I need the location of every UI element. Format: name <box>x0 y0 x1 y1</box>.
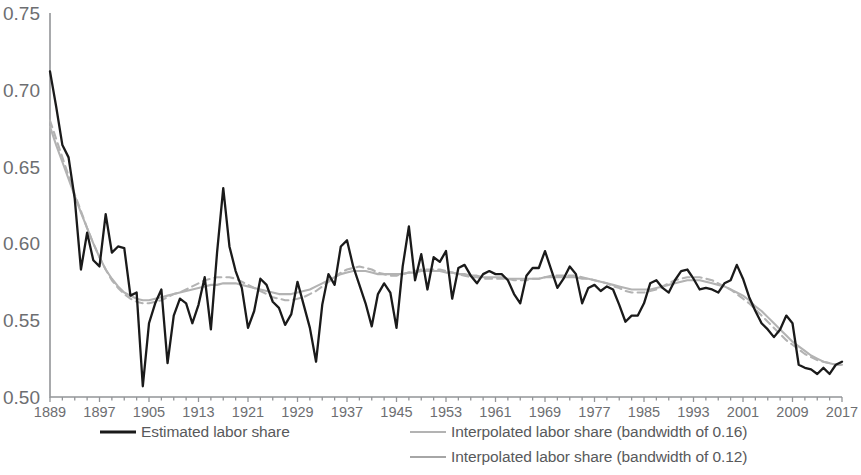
x-tick-label: 1889 <box>34 404 66 420</box>
y-tick-label: 0.65 <box>3 157 40 178</box>
x-tick-label: 1969 <box>529 404 561 420</box>
labor-share-chart: 0.750.700.650.600.550.50 188918971905191… <box>0 0 861 475</box>
x-tick-label: 2001 <box>727 404 759 420</box>
x-tick-label: 1961 <box>479 404 511 420</box>
legend-item-interpolated-bw016: Interpolated labor share (bandwidth of 0… <box>410 423 747 441</box>
x-tick-label: 1905 <box>133 404 165 420</box>
series-estimated-labor-share <box>50 71 842 386</box>
x-tick-label: 1945 <box>380 404 412 420</box>
axis-lines <box>50 13 842 397</box>
x-tick-label: 1937 <box>331 404 363 420</box>
legend-label-interpolated-bw016: Interpolated labor share (bandwidth of 0… <box>451 423 747 441</box>
legend-swatch-dashed-line-icon <box>410 451 446 463</box>
chart-plot-area: 0.750.700.650.600.550.50 188918971905191… <box>0 0 861 420</box>
x-tick-label: 2017 <box>826 404 858 420</box>
legend-swatch-gray-line-icon <box>410 426 446 438</box>
y-tick-label: 0.55 <box>3 310 40 331</box>
x-tick-label: 1913 <box>182 404 214 420</box>
legend-item-interpolated-bw012: Interpolated labor share (bandwidth of 0… <box>410 448 747 466</box>
series-interpolated-bw016 <box>50 127 842 365</box>
y-tick-label: 0.75 <box>3 3 40 24</box>
x-tick-label: 2009 <box>776 404 808 420</box>
x-tick-label: 1921 <box>232 404 264 420</box>
legend-item-estimated: Estimated labor share <box>100 423 290 441</box>
series-interpolated-bw012 <box>50 121 842 365</box>
legend-swatch-solid-line-icon <box>100 426 136 438</box>
legend-label-interpolated-bw012: Interpolated labor share (bandwidth of 0… <box>451 448 747 466</box>
chart-axes <box>50 13 842 397</box>
y-tick-label: 0.70 <box>3 80 40 101</box>
legend-label-estimated: Estimated labor share <box>141 423 290 441</box>
x-tick-label: 1929 <box>281 404 313 420</box>
x-tick-label: 1993 <box>677 404 709 420</box>
x-axis-tick-labels: 1889189719051913192119291937194519531961… <box>34 404 858 420</box>
x-tick-label: 1977 <box>578 404 610 420</box>
x-tick-label: 1897 <box>83 404 115 420</box>
y-axis-tick-labels: 0.750.700.650.600.550.50 <box>3 3 40 408</box>
x-tick-label: 1953 <box>430 404 462 420</box>
y-tick-label: 0.60 <box>3 233 40 254</box>
chart-legend: Estimated labor share Interpolated labor… <box>0 421 861 475</box>
x-tick-label: 1985 <box>628 404 660 420</box>
